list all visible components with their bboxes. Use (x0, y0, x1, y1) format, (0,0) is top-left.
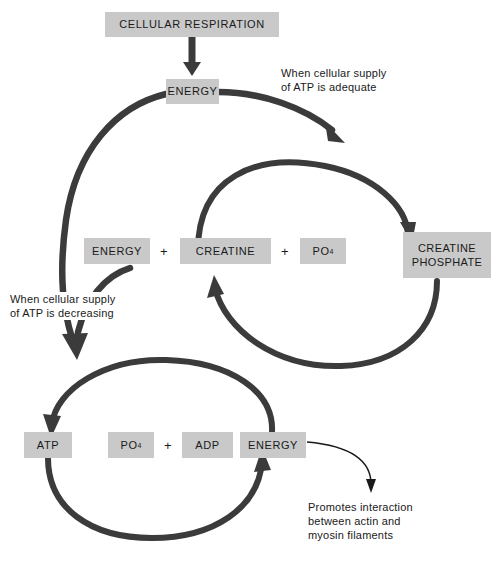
note-promotes-interaction: Promotes interaction between actin and m… (308, 500, 413, 542)
po4-subscript-bottom: 4 (138, 439, 142, 452)
box-cellular-respiration[interactable]: CELLULAR RESPIRATION (105, 12, 279, 37)
box-creatine-phosphate[interactable]: CREATINE PHOSPHATE (403, 232, 491, 278)
po4-subscript-mid: 4 (330, 245, 334, 258)
creatine-phosphate-line-1: CREATINE (418, 241, 476, 255)
po4-label-bottom: PO (121, 439, 138, 452)
arrow-energy-to-creatine-cycle (218, 92, 345, 143)
box-energy-mid[interactable]: ENERGY (84, 238, 150, 264)
diagram-canvas: CELLULAR RESPIRATION ENERGY ENERGY + CRE… (0, 0, 497, 565)
box-adp[interactable]: ADP (182, 432, 233, 458)
po4-label-mid: PO (313, 245, 330, 258)
creatine-phosphate-line-2: PHOSPHATE (412, 255, 483, 269)
arrowhead-into-atp-cycle (62, 333, 88, 360)
box-creatine[interactable]: CREATINE (180, 238, 271, 264)
arrow-energy-to-promotes-note (307, 442, 376, 493)
plus-mid-2: + (281, 245, 289, 258)
arrow-creatine-phosphate-to-creatine (207, 275, 437, 366)
arrow-respiration-to-energy (183, 37, 201, 76)
box-energy-top[interactable]: ENERGY (166, 79, 219, 104)
box-energy-bottom[interactable]: ENERGY (240, 432, 306, 458)
box-po4-bottom[interactable]: PO4 (108, 432, 154, 458)
arrow-layer (0, 0, 497, 565)
note-atp-adequate: When cellular supply of ATP is adequate (281, 66, 387, 94)
box-atp[interactable]: ATP (24, 432, 72, 458)
arrow-creatine-to-creatine-phosphate (198, 162, 416, 250)
arrow-atp-to-energy (48, 448, 271, 538)
note-atp-decreasing: When cellular supply of ATP is decreasin… (10, 292, 116, 320)
box-po4-mid[interactable]: PO4 (300, 238, 346, 264)
plus-mid-1: + (160, 245, 168, 258)
arrow-energy-to-atp (43, 360, 272, 438)
plus-bottom-1: + (164, 439, 172, 452)
